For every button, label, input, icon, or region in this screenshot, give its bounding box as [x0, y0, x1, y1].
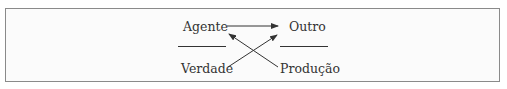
- arrow-verdade-outro: [228, 35, 277, 67]
- arrows-layer: [0, 0, 507, 89]
